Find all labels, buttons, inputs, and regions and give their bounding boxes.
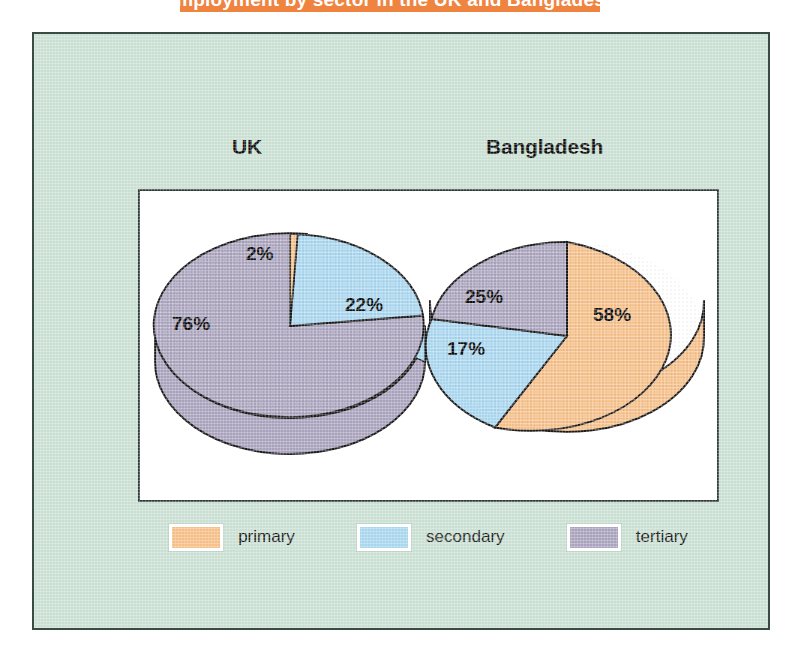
pie-bangladesh bbox=[426, 242, 704, 432]
page-title: Employment by sector in the UK and Bangl… bbox=[163, 0, 616, 11]
pie-bd-label-tertiary: 25% bbox=[465, 286, 503, 308]
pie-uk bbox=[154, 233, 425, 454]
pie-uk-label-tertiary: 76% bbox=[172, 313, 210, 335]
figure-panel: UK Bangladesh bbox=[32, 32, 770, 630]
legend-item-secondary: secondary bbox=[357, 524, 504, 551]
chart-plot-area: 2% 22% 76% 25% 17% 58% bbox=[138, 189, 719, 502]
legend-label-primary: primary bbox=[238, 527, 295, 547]
pie-bd-label-primary: 58% bbox=[593, 304, 631, 326]
legend-item-primary: primary bbox=[169, 524, 295, 551]
legend-label-tertiary: tertiary bbox=[636, 527, 688, 547]
title-banner: Employment by sector in the UK and Bangl… bbox=[180, 0, 600, 12]
chart-title-bangladesh: Bangladesh bbox=[486, 135, 603, 159]
legend-swatch-secondary bbox=[357, 524, 411, 551]
pie-chart-svg bbox=[140, 191, 717, 500]
pie-uk-label-primary: 2% bbox=[246, 243, 273, 265]
pie-bd-label-secondary: 17% bbox=[447, 338, 485, 360]
chart-title-uk: UK bbox=[232, 135, 262, 159]
pie-uk-label-secondary: 22% bbox=[345, 294, 383, 316]
legend-swatch-tertiary bbox=[567, 524, 621, 551]
legend-item-tertiary: tertiary bbox=[567, 524, 688, 551]
legend-label-secondary: secondary bbox=[426, 527, 504, 547]
pie-charts-container: 2% 22% 76% 25% 17% 58% bbox=[140, 191, 717, 500]
legend: primary secondary tertiary bbox=[138, 517, 719, 557]
legend-swatch-primary bbox=[169, 524, 223, 551]
